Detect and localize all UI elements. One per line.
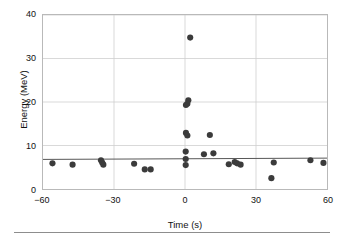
data-point [142,166,148,172]
data-point [100,162,106,168]
xtick-label-60: 60 [313,196,343,205]
scatter-chart-figure: 40 30 20 10 0 −60 −30 0 30 60 Time (s) E… [0,0,344,237]
data-point [183,162,189,168]
data-point [131,161,137,167]
data-point [271,159,277,165]
data-point [185,97,191,103]
y-axis-title: Energy (MeV) [18,45,29,155]
plot-canvas [43,15,327,189]
data-point [307,157,313,163]
data-point [70,162,76,168]
ytick-label-40: 40 [6,10,36,19]
data-point [226,161,232,167]
data-point [238,162,244,168]
data-point [210,150,216,156]
xtick-label-minus-30: −30 [98,196,128,205]
ytick-label-0: 0 [6,186,36,195]
data-point [183,149,189,155]
data-point [268,175,274,181]
xtick-label-30: 30 [241,196,271,205]
data-point [49,160,55,166]
data-point [187,35,193,41]
data-point [201,151,207,157]
data-point [183,156,189,162]
plot-area [42,14,328,190]
data-point [207,132,213,138]
x-axis-title: Time (s) [42,219,328,230]
xtick-label-0: 0 [170,196,200,205]
xtick-label-minus-60: −60 [27,196,57,205]
data-point [320,160,326,166]
data-point [148,166,154,172]
data-point [184,132,190,138]
footer-divider [14,232,330,233]
